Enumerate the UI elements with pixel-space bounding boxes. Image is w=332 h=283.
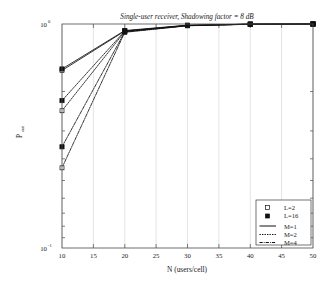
- open-square-icon: [266, 206, 270, 210]
- figure-canvas: Single-user receiver, Shadowing factor =…: [0, 0, 332, 283]
- xtick-label: 35: [216, 252, 223, 259]
- filled-square-icon: [266, 214, 270, 218]
- xtick-label: 50: [310, 252, 317, 259]
- xtick-label: 25: [153, 252, 160, 259]
- legend-label: L=16: [284, 212, 299, 219]
- xtick-label: 45: [278, 252, 285, 259]
- xtick-label: 20: [121, 252, 128, 259]
- legend-label: L=2: [284, 204, 295, 211]
- xaxis-title: N (users/cell): [167, 265, 208, 274]
- legend[interactable]: L=2 L=16 M=1 M=2 M=4: [256, 200, 311, 246]
- legend-label: M=2: [284, 231, 297, 238]
- yaxis-title-subscript: out: [20, 125, 25, 132]
- xtick-label: 40: [247, 252, 254, 259]
- yaxis-title-base: P: [15, 134, 24, 138]
- filled-square-marker: [123, 30, 127, 34]
- legend-label: M=4: [284, 239, 298, 246]
- xtick-label: 15: [90, 252, 97, 259]
- xtick-label: 30: [184, 252, 191, 259]
- legend-label: M=1: [284, 223, 297, 230]
- chart-title: Single-user receiver, Shadowing factor =…: [120, 13, 254, 21]
- ytick-label-mantissa: 10: [40, 21, 47, 28]
- xtick-label: 10: [59, 252, 66, 259]
- ytick-label-mantissa: 10: [40, 245, 47, 252]
